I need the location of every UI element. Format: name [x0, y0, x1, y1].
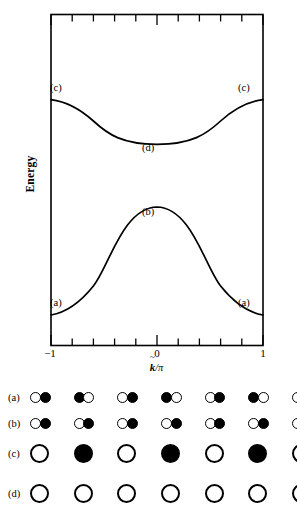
- open-circle-icon: [30, 484, 49, 503]
- band-structure-figure: Energy −1 0 1 k/π (c) (c) (d) (b) (a) (a…: [0, 0, 297, 380]
- x-axis-ticks-bottom: [51, 335, 263, 345]
- filled-circle-icon: [258, 418, 269, 429]
- x-axis-label-pi: π: [158, 362, 163, 373]
- orbital-pair: [205, 385, 226, 409]
- orbital-site: [117, 481, 136, 505]
- orbital-site: [74, 481, 93, 505]
- orbital-pair: [248, 385, 269, 409]
- open-circle-icon: [205, 484, 224, 503]
- orbital-pair: [30, 385, 51, 409]
- orbital-site: [292, 481, 297, 505]
- open-circle-icon: [117, 444, 136, 463]
- orbital-row-b: (b): [0, 408, 297, 438]
- open-circle-icon: [292, 418, 297, 429]
- orbital-site: [117, 441, 136, 465]
- x-axis-label: k/π: [0, 361, 297, 373]
- orbital-pair: [74, 385, 95, 409]
- orbital-site: [205, 441, 224, 465]
- lower-band-curve: [51, 207, 263, 315]
- orbital-site: [74, 441, 93, 465]
- open-circle-icon: [74, 484, 93, 503]
- filled-circle-icon: [214, 418, 225, 429]
- filled-circle-icon: [214, 392, 225, 403]
- x-axis-ticks-top: [51, 15, 263, 25]
- filled-circle-icon: [40, 392, 51, 403]
- x-tick-label-zero: 0: [142, 347, 172, 359]
- orbital-row-c: (c): [0, 438, 297, 468]
- filled-circle-icon: [171, 418, 182, 429]
- filled-circle-icon: [74, 444, 93, 463]
- x-tick-label-minus-one: −1: [35, 347, 65, 359]
- orbital-schematic-panel: (a) (b) (c) (d): [0, 380, 297, 527]
- orbital-row-d: (d): [0, 478, 297, 508]
- upper-band-curve: [51, 100, 263, 145]
- annotation-c-right: (c): [238, 82, 250, 93]
- orbital-site: [30, 441, 49, 465]
- orbital-site: [292, 441, 297, 465]
- open-circle-icon: [30, 444, 49, 463]
- annotation-d: (d): [142, 142, 154, 153]
- filled-circle-icon: [127, 392, 138, 403]
- orbital-pair: [205, 411, 226, 435]
- annotation-c-left: (c): [50, 82, 62, 93]
- orbital-pair: [292, 411, 297, 435]
- open-circle-icon: [248, 484, 267, 503]
- annotation-b: (b): [142, 206, 154, 217]
- orbital-pair: [292, 385, 297, 409]
- filled-circle-icon: [83, 418, 94, 429]
- annotation-a-right: (a): [238, 297, 250, 308]
- orbital-pair: [117, 411, 138, 435]
- orbital-row-d-cells: [28, 478, 297, 508]
- open-circle-icon: [292, 444, 297, 463]
- x-axis-label-k: k: [150, 361, 156, 373]
- orbital-site: [161, 481, 180, 505]
- open-circle-icon: [83, 392, 94, 403]
- filled-circle-icon: [40, 418, 51, 429]
- orbital-row-b-cells: [28, 408, 297, 438]
- orbital-pair: [161, 385, 182, 409]
- orbital-row-c-cells: [28, 438, 297, 468]
- plot-frame: [51, 15, 263, 346]
- open-circle-icon: [161, 484, 180, 503]
- orbital-pair: [117, 385, 138, 409]
- open-circle-icon: [292, 392, 297, 403]
- orbital-pair: [161, 411, 182, 435]
- open-circle-icon: [117, 484, 136, 503]
- x-tick-label-one: 1: [248, 347, 278, 359]
- annotation-a-left: (a): [50, 297, 62, 308]
- orbital-site: [161, 441, 180, 465]
- orbital-pair: [248, 411, 269, 435]
- filled-circle-icon: [161, 444, 180, 463]
- filled-circle-icon: [248, 444, 267, 463]
- open-circle-icon: [292, 484, 297, 503]
- orbital-site: [30, 481, 49, 505]
- filled-circle-icon: [127, 418, 138, 429]
- open-circle-icon: [205, 444, 224, 463]
- y-axis-label: Energy: [24, 138, 36, 210]
- orbital-site: [205, 481, 224, 505]
- open-circle-icon: [171, 392, 182, 403]
- orbital-site: [248, 481, 267, 505]
- orbital-site: [248, 441, 267, 465]
- orbital-pair: [74, 411, 95, 435]
- orbital-pair: [30, 411, 51, 435]
- open-circle-icon: [258, 392, 269, 403]
- band-structure-plot: [0, 0, 297, 380]
